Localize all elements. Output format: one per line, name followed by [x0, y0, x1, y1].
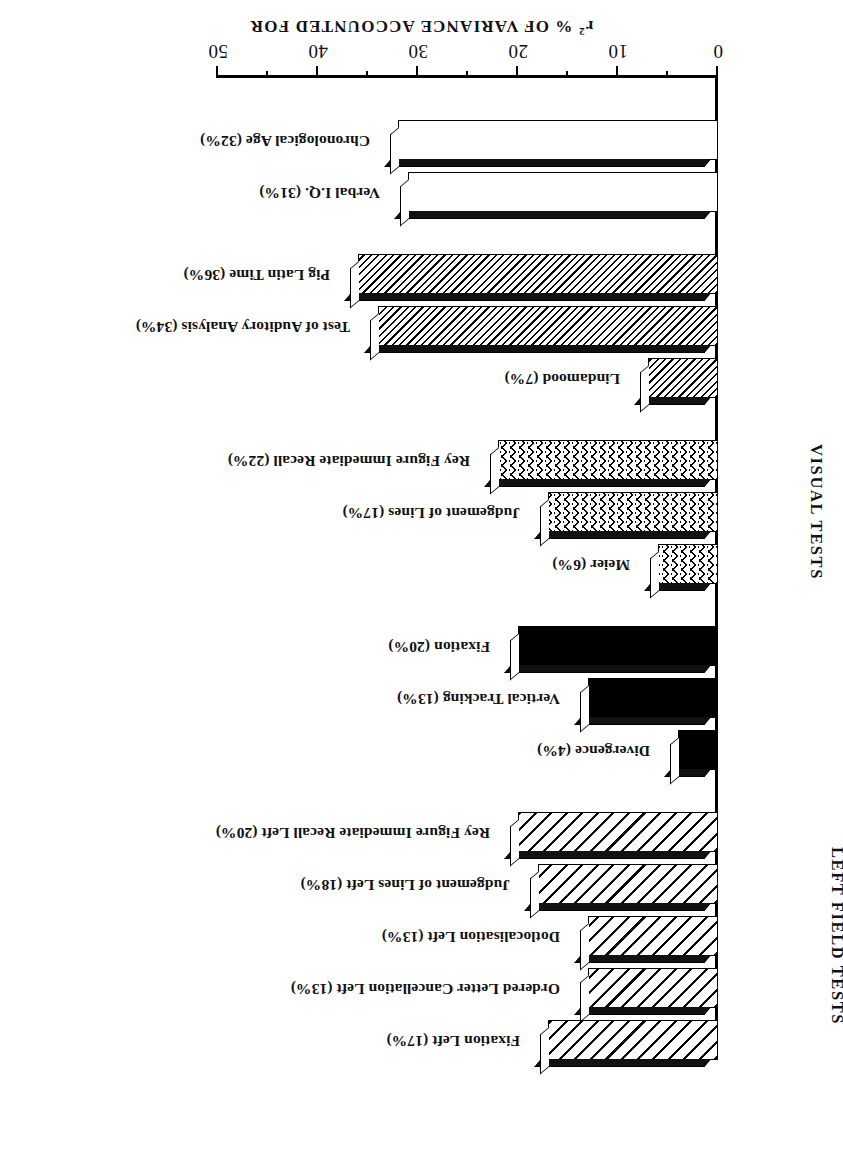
- bar-side-face: [400, 179, 409, 227]
- bar-label: Fixation Left (17%): [386, 1032, 520, 1050]
- axis-title-text: % OF VARIANCE ACCOUNTED FOR: [250, 17, 578, 36]
- axis-tick-20: [516, 66, 518, 78]
- axis-minor-tick-35: [366, 71, 368, 78]
- bar-label: Judgement of Lines Left (18%): [300, 876, 510, 894]
- bar-top-face: [394, 211, 711, 219]
- bar-label: Vertical Tracking (13%): [397, 690, 560, 708]
- bar-side-face: [540, 1027, 549, 1075]
- bar-label: Rey Figure Immediate Recall Left (20%): [216, 824, 490, 842]
- bar: [548, 492, 718, 532]
- bar-side-face: [540, 499, 549, 547]
- bar-top-face: [534, 1059, 711, 1067]
- bar: [518, 626, 718, 666]
- bar-top-face: [484, 479, 711, 487]
- bar-top-face: [574, 717, 711, 725]
- axis-tick-label-50: 50: [198, 40, 238, 62]
- group-label-visual: VISUAL TESTS: [806, 444, 826, 580]
- axis-tick-label-20: 20: [498, 40, 538, 62]
- axis-minor-tick-5: [666, 71, 668, 78]
- bar-chart: 01020304050 r2 % OF VARIANCE ACCOUNTED F…: [0, 0, 843, 1160]
- bar-side-face: [490, 447, 499, 495]
- bar-side-face: [580, 685, 589, 733]
- axis-minor-tick-45: [266, 71, 268, 78]
- bar-label: Chronological Age (32%): [200, 132, 370, 150]
- axis-minor-tick-25: [466, 71, 468, 78]
- bar: [678, 730, 718, 770]
- bar-side-face: [350, 261, 359, 309]
- bar-side-face: [580, 975, 589, 1023]
- bar: [588, 968, 718, 1008]
- axis-tick-0: [716, 66, 718, 78]
- bar: [658, 544, 718, 584]
- bar: [548, 1020, 718, 1060]
- axis-title: r2 % OF VARIANCE ACCOUNTED FOR: [0, 16, 843, 38]
- bar-side-face: [670, 737, 679, 785]
- bar-label: Judgement of Lines (17%): [342, 504, 520, 522]
- axis-title-exponent: 2: [578, 26, 585, 38]
- bar: [398, 120, 718, 160]
- bar-label: Dotlocalisation Left (13%): [382, 928, 560, 946]
- axis-tick-label-40: 40: [298, 40, 338, 62]
- bar-side-face: [390, 127, 399, 175]
- bar-side-face: [510, 819, 519, 867]
- bar-side-face: [510, 633, 519, 681]
- bar-side-face: [650, 551, 659, 599]
- bar-top-face: [384, 159, 711, 167]
- bar-label: Ordered Letter Cancellation Left (13%): [291, 980, 560, 998]
- bar-side-face: [580, 923, 589, 971]
- axis-title-r: r: [585, 17, 594, 36]
- bar-top-face: [574, 1007, 711, 1015]
- bar: [588, 678, 718, 718]
- bar: [588, 916, 718, 956]
- axis-tick-label-10: 10: [598, 40, 638, 62]
- axis-tick-50: [216, 66, 218, 78]
- bar-side-face: [370, 313, 379, 361]
- bar: [408, 172, 718, 212]
- axis-tick-label-0: 0: [698, 40, 738, 62]
- bar-side-face: [530, 871, 539, 919]
- bar-label: Divergence (4%): [537, 742, 650, 760]
- bar-side-face: [640, 365, 649, 413]
- bar: [648, 358, 718, 398]
- bar-label: Rey Figure Immediate Recall (22%): [228, 452, 470, 470]
- axis-tick-10: [616, 66, 618, 78]
- bar-label: Pig Latin Time (36%): [183, 266, 330, 284]
- bar-top-face: [504, 665, 711, 673]
- bar-label: Lindamood (7%): [504, 370, 620, 388]
- page-rotation-wrapper: 01020304050 r2 % OF VARIANCE ACCOUNTED F…: [0, 0, 843, 1160]
- bar: [358, 254, 718, 294]
- bar-label: Fixation (20%): [388, 638, 490, 656]
- bar-top-face: [524, 903, 711, 911]
- bar: [538, 864, 718, 904]
- bar-top-face: [504, 851, 711, 859]
- axis-tick-30: [416, 66, 418, 78]
- bar-top-face: [574, 955, 711, 963]
- axis-tick-40: [316, 66, 318, 78]
- bar: [378, 306, 718, 346]
- bar: [498, 440, 718, 480]
- bar-top-face: [364, 345, 711, 353]
- bar-label: Meier (6%): [552, 556, 630, 574]
- bar: [518, 812, 718, 852]
- group-label-leftfield: LEFT FIELD TESTS: [827, 847, 843, 1025]
- bar-label: Test of Auditory Analysis (34%): [136, 318, 350, 336]
- bar-top-face: [344, 293, 711, 301]
- bar-top-face: [534, 531, 711, 539]
- axis-minor-tick-15: [566, 71, 568, 78]
- bar-label: Verbal I.Q. (31%): [259, 184, 380, 202]
- axis-tick-label-30: 30: [398, 40, 438, 62]
